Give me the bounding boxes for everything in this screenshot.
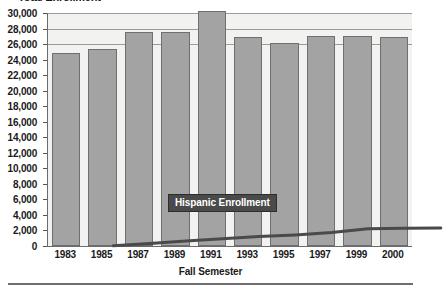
y-tick-label: 2,000 <box>13 225 37 236</box>
line-series-hispanic-enrollment <box>95 26 447 259</box>
x-axis: 1983198519871989199119931995199719992000 <box>47 249 411 265</box>
x-axis-title: Fall Semester <box>0 266 421 277</box>
series-callout-label: Hispanic Enrollment <box>168 194 277 212</box>
y-tick-label: 26,000 <box>8 39 37 50</box>
y-tick-label: 28,000 <box>8 23 37 34</box>
y-tick-label: 10,000 <box>8 163 37 174</box>
y-tick-label: 18,000 <box>8 101 37 112</box>
x-tick-label: 1999 <box>346 249 367 260</box>
y-tick-label: 30,000 <box>8 8 37 19</box>
y-tick-label: 22,000 <box>8 70 37 81</box>
x-tick-label: 1991 <box>200 249 221 260</box>
x-tick-label: 1987 <box>127 249 148 260</box>
x-tick-label: 2000 <box>382 249 403 260</box>
y-tick-label: 8,000 <box>13 178 37 189</box>
gridline <box>48 13 412 14</box>
x-tick-label: 1997 <box>309 249 330 260</box>
bottom-divider <box>8 283 413 285</box>
y-tick-label: 14,000 <box>8 132 37 143</box>
x-tick-label: 1995 <box>273 249 294 260</box>
x-tick-label: 1993 <box>236 249 257 260</box>
y-tick-label: 6,000 <box>13 194 37 205</box>
y-tick-label: 12,000 <box>8 147 37 158</box>
y-tick-label: 0 <box>32 241 37 252</box>
x-tick-label: 1989 <box>164 249 185 260</box>
y-tick-label: 24,000 <box>8 54 37 65</box>
bar <box>52 53 80 246</box>
y-tick-label: 20,000 <box>8 85 37 96</box>
x-tick-label: 1983 <box>54 249 75 260</box>
y-axis: 02,0004,0006,0008,00010,00012,00014,0001… <box>0 0 44 289</box>
y-tick-label: 16,000 <box>8 116 37 127</box>
x-tick-label: 1985 <box>91 249 112 260</box>
y-tick-label: 4,000 <box>13 209 37 220</box>
